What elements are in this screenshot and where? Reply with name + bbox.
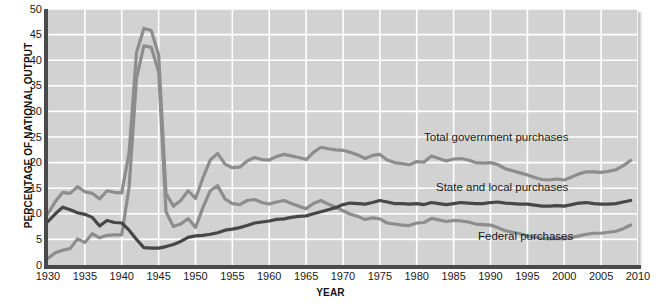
series-label-federal: Federal purchases	[478, 230, 573, 242]
chart-container: 05101520253035404550 1930193519401945195…	[0, 0, 661, 308]
y-tick-label: 0	[16, 260, 42, 271]
y-axis-title: PERCENTAGE OF NATIONAL OUTPUT	[23, 31, 34, 241]
x-axis-title: YEAR	[0, 287, 661, 298]
y-axis-line	[44, 9, 48, 267]
y-tick-label: 50	[16, 4, 42, 15]
x-axis-line	[44, 265, 641, 269]
x-tick-label: 2010	[616, 270, 660, 282]
series-label-state-and-local: State and local purchases	[436, 181, 568, 193]
series-label-total-government: Total government purchases	[424, 131, 568, 143]
